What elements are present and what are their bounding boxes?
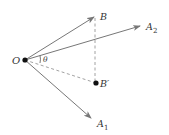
label-bprime: B′ <box>99 78 110 89</box>
label-theta: θ <box>43 55 48 64</box>
label-b: B <box>99 11 107 22</box>
arrow-o-a1 <box>25 60 91 118</box>
label-o: O <box>12 55 20 66</box>
label-a2: A2 <box>145 21 157 35</box>
point-bprime <box>93 80 98 85</box>
arrow-o-b <box>25 17 94 60</box>
dashed-line-o-bprime <box>25 60 96 83</box>
vector-diagram: O θ B A2 B′ A1 <box>0 0 169 135</box>
point-o <box>22 57 27 62</box>
label-a1: A1 <box>96 118 108 132</box>
